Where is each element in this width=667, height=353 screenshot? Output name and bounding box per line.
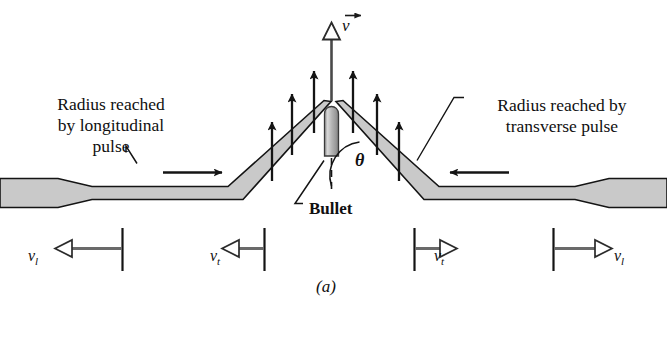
velocity-vector-arrowhead bbox=[323, 23, 340, 40]
label-speed-vl-left: vl bbox=[28, 247, 38, 267]
bullet-shape bbox=[325, 107, 339, 157]
label-radius-transverse: Radius reached by transverse pulse bbox=[462, 95, 662, 137]
speed-subscript: l bbox=[621, 255, 624, 267]
leader-line-bullet bbox=[295, 161, 324, 204]
speed-subscript: t bbox=[217, 255, 220, 267]
speed-subscript: t bbox=[441, 255, 444, 267]
speed-subscript: l bbox=[35, 255, 38, 267]
label-speed-vl-right: vl bbox=[614, 247, 624, 267]
label-radius-longitudinal: Radius reached by longitudinal pulse bbox=[6, 94, 216, 157]
label-bullet: Bullet bbox=[309, 199, 352, 219]
label-speed-vt-left: vt bbox=[210, 247, 220, 267]
label-angle-theta: θ bbox=[355, 150, 364, 171]
physics-figure-bullet-string: Radius reached by longitudinal pulse Rad… bbox=[0, 0, 667, 353]
speed-marker-vl-right bbox=[554, 228, 613, 271]
speed-marker-vt-left bbox=[222, 228, 265, 271]
figure-caption: (a) bbox=[316, 277, 336, 297]
leader-line-right-label bbox=[417, 98, 464, 161]
figure-canvas bbox=[0, 0, 667, 353]
label-speed-vt-right: vt bbox=[434, 247, 444, 267]
label-velocity-vector: v bbox=[342, 16, 350, 36]
speed-marker-vl-left bbox=[55, 228, 123, 271]
